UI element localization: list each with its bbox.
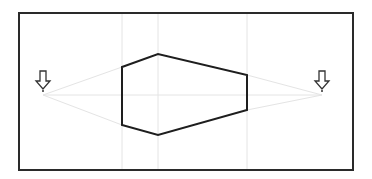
perspective-diagram xyxy=(0,0,372,179)
down-arrow-icon xyxy=(315,71,329,92)
convergence-line xyxy=(43,67,122,95)
vanishing-point-dot xyxy=(42,90,44,92)
down-arrow-icon xyxy=(36,71,50,92)
diagram-canvas xyxy=(0,0,372,179)
frame-border xyxy=(19,13,353,170)
arrow-shape xyxy=(36,71,50,89)
vanishing-point-dot xyxy=(321,90,323,92)
arrow-shape xyxy=(315,71,329,89)
picture-frame xyxy=(19,13,353,170)
convergence-line xyxy=(43,95,122,125)
construction-guides xyxy=(43,13,322,170)
convergence-line xyxy=(247,95,322,110)
convergence-line xyxy=(247,75,322,95)
